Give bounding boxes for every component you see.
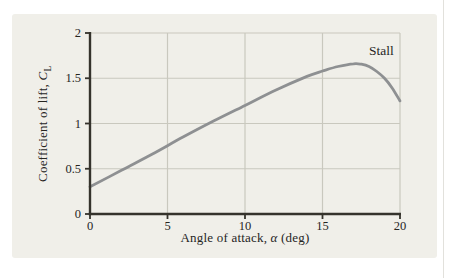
- page: 0510152000.511.52 Coefficient of lift, C…: [0, 0, 457, 278]
- x-axis-title-units: (deg): [278, 230, 310, 245]
- x-tick-label: 20: [394, 219, 407, 233]
- y-axis-title: Coefficient of lift, CL: [35, 24, 53, 224]
- page-edge-artifact: [443, 0, 444, 278]
- x-axis-symbol: α: [271, 230, 278, 245]
- y-axis-subscript: L: [43, 66, 53, 72]
- x-axis-title: Angle of attack, α (deg): [95, 230, 395, 246]
- chart-panel: 0510152000.511.52 Coefficient of lift, C…: [12, 14, 437, 258]
- y-axis-symbol: C: [35, 72, 50, 81]
- y-tick-label: 0: [75, 207, 81, 221]
- y-tick-label: 1.5: [65, 71, 81, 85]
- x-axis-title-text: Angle of attack,: [181, 230, 271, 245]
- y-tick-label: 0.5: [65, 162, 81, 176]
- stall-annotation: Stall: [369, 43, 394, 59]
- y-tick-label: 2: [75, 26, 81, 40]
- y-tick-label: 1: [75, 117, 81, 131]
- y-axis-title-text: Coefficient of lift,: [35, 80, 50, 181]
- x-tick-label: 0: [87, 219, 93, 233]
